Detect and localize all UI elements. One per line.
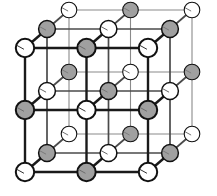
atom-sphere (139, 39, 157, 57)
lattice-atom-a (39, 83, 56, 100)
lattice-atom-b (123, 126, 139, 142)
atom-sphere (61, 64, 77, 80)
lattice-atom-b (77, 163, 95, 181)
lattice-atom-a (16, 163, 34, 181)
atom-sphere (39, 21, 56, 38)
lattice-atom-a (16, 39, 34, 57)
lattice-render-order (16, 2, 200, 181)
atom-sphere (39, 145, 56, 162)
atom-sphere (100, 83, 117, 100)
atom-sphere (61, 126, 77, 142)
lattice-atom-b (123, 2, 139, 18)
lattice-atom-b (16, 101, 34, 119)
lattice-canvas (0, 0, 217, 196)
lattice-atom-b (77, 39, 95, 57)
lattice-atom-b (162, 21, 179, 38)
crystal-lattice-figure (0, 0, 217, 196)
atom-sphere (184, 126, 200, 142)
atom-sphere (16, 101, 34, 119)
atom-sphere (16, 163, 34, 181)
lattice-atom-a (61, 126, 77, 142)
lattice-atom-b (162, 145, 179, 162)
lattice-atom-a (100, 21, 117, 38)
lattice-atom-b (100, 83, 117, 100)
lattice-atom-a (184, 2, 200, 18)
lattice-atom-a (139, 39, 157, 57)
lattice-atom-a (61, 2, 77, 18)
atom-sphere (16, 39, 34, 57)
lattice-atom-b (39, 145, 56, 162)
atom-sphere (39, 83, 56, 100)
atom-sphere (77, 163, 95, 181)
lattice-atom-a (100, 145, 117, 162)
atom-sphere (100, 21, 117, 38)
atom-sphere (77, 101, 95, 119)
atom-sphere (162, 21, 179, 38)
atom-sphere (184, 2, 200, 18)
lattice-atom-a (139, 163, 157, 181)
lattice-atom-b (184, 64, 200, 80)
atom-sphere (139, 101, 157, 119)
atom-sphere (61, 2, 77, 18)
atom-sphere (162, 145, 179, 162)
lattice-atom-a (162, 83, 179, 100)
atom-sphere (100, 145, 117, 162)
atom-sphere (123, 126, 139, 142)
atom-sphere (184, 64, 200, 80)
lattice-atom-a (123, 64, 139, 80)
lattice-atom-a (184, 126, 200, 142)
atom-sphere (77, 39, 95, 57)
lattice-atom-b (139, 101, 157, 119)
lattice-atom-b (39, 21, 56, 38)
lattice-atom-a (77, 101, 95, 119)
lattice-atom-b (61, 64, 77, 80)
atom-sphere (139, 163, 157, 181)
atom-sphere (123, 64, 139, 80)
atom-sphere (162, 83, 179, 100)
atom-sphere (123, 2, 139, 18)
